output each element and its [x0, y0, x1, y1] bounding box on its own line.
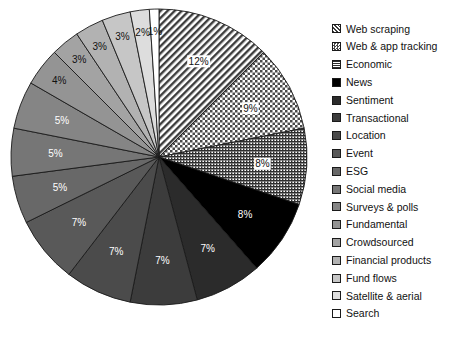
legend-item-label: Web & app tracking: [346, 41, 437, 52]
legend-swatch-icon: [332, 149, 341, 158]
legend-item[interactable]: Transactional: [332, 109, 464, 127]
legend-item-label: Economic: [346, 59, 392, 70]
pie-slice-label: 3%: [72, 54, 87, 65]
pie-slice-label: 3%: [92, 41, 107, 52]
legend-swatch-icon: [332, 78, 341, 87]
legend-swatch-icon: [332, 274, 341, 283]
chart-legend: Web scrapingWeb & app trackingEconomicNe…: [332, 20, 464, 323]
legend-item[interactable]: Fundamental: [332, 216, 464, 234]
legend-item[interactable]: Satellite & aerial: [332, 287, 464, 305]
pie-slice-label: 7%: [155, 255, 170, 266]
legend-item[interactable]: Location: [332, 127, 464, 145]
legend-swatch-icon: [332, 113, 341, 122]
legend-swatch-icon: [332, 42, 341, 51]
legend-item-label: Fund flows: [346, 273, 397, 284]
legend-swatch-icon: [332, 309, 341, 318]
legend-item[interactable]: News: [332, 73, 464, 91]
pie-svg: 12%9%8%8%7%7%7%7%5%5%5%4%3%3%3%2%1%: [0, 0, 320, 340]
pie-slice-label: 9%: [243, 103, 258, 114]
legend-swatch-icon: [332, 131, 341, 140]
legend-swatch-icon: [332, 167, 341, 176]
legend-item-label: Crowdsourced: [346, 237, 414, 248]
legend-swatch-icon: [332, 96, 341, 105]
pie-slice-label: 7%: [201, 243, 216, 254]
pie-slice-label: 12%: [189, 56, 209, 67]
pie-slice-label: 3%: [115, 31, 130, 42]
legend-swatch-icon: [332, 185, 341, 194]
legend-item-label: Surveys & polls: [346, 202, 418, 213]
legend-item[interactable]: Search: [332, 305, 464, 323]
legend-item-label: Event: [346, 148, 373, 159]
legend-item-label: Web scraping: [346, 24, 410, 35]
legend-item[interactable]: Economic: [332, 56, 464, 74]
legend-item[interactable]: Event: [332, 145, 464, 163]
pie-slice-label: 1%: [148, 26, 163, 37]
legend-item-label: Location: [346, 130, 386, 141]
pie-slice-label: 7%: [72, 217, 87, 228]
legend-swatch-icon: [332, 291, 341, 300]
legend-item-label: Satellite & aerial: [346, 291, 422, 302]
legend-swatch-icon: [332, 202, 341, 211]
legend-item[interactable]: Sentiment: [332, 91, 464, 109]
pie-slice-label: 5%: [53, 182, 68, 193]
legend-item[interactable]: ESG: [332, 162, 464, 180]
legend-item[interactable]: Surveys & polls: [332, 198, 464, 216]
legend-swatch-icon: [332, 220, 341, 229]
pie-slice-label: 5%: [48, 148, 63, 159]
legend-item[interactable]: Web & app tracking: [332, 38, 464, 56]
legend-swatch-icon: [332, 60, 341, 69]
legend-item-label: Search: [346, 308, 379, 319]
legend-item-label: Fundamental: [346, 219, 407, 230]
legend-item[interactable]: Financial products: [332, 251, 464, 269]
legend-swatch-icon: [332, 24, 341, 33]
legend-swatch-icon: [332, 256, 341, 265]
pie-plot-area: 12%9%8%8%7%7%7%7%5%5%5%4%3%3%3%2%1%: [0, 0, 320, 340]
legend-item-label: Financial products: [346, 255, 431, 266]
legend-swatch-icon: [332, 238, 341, 247]
legend-item-label: Transactional: [346, 113, 409, 124]
pie-slice-label: 7%: [109, 246, 124, 257]
pie-slice-label: 8%: [238, 209, 253, 220]
legend-item-label: Sentiment: [346, 95, 393, 106]
legend-item[interactable]: Web scraping: [332, 20, 464, 38]
legend-item-label: Social media: [346, 184, 406, 195]
legend-item[interactable]: Social media: [332, 180, 464, 198]
pie-chart-figure: 12%9%8%8%7%7%7%7%5%5%5%4%3%3%3%2%1% Web …: [0, 0, 464, 340]
pie-slice-label: 4%: [52, 75, 67, 86]
pie-slice-label: 8%: [255, 158, 270, 169]
legend-item-label: News: [346, 77, 372, 88]
legend-item-label: ESG: [346, 166, 368, 177]
legend-item[interactable]: Fund flows: [332, 269, 464, 287]
legend-item[interactable]: Crowdsourced: [332, 234, 464, 252]
pie-slice-label: 5%: [55, 115, 70, 126]
